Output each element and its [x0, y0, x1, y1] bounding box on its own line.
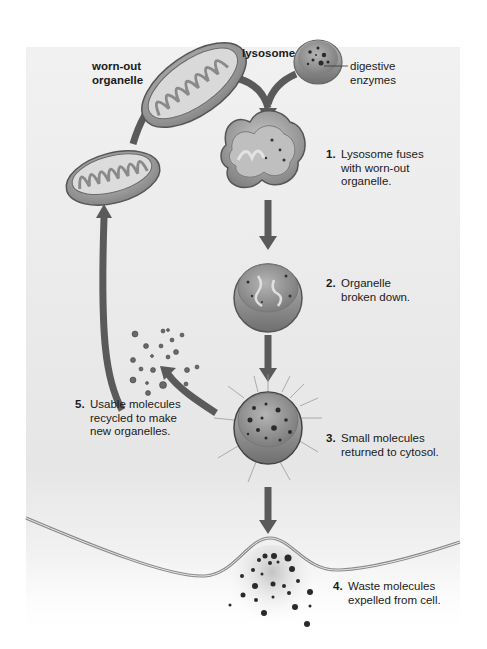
- step-4-number: 4.: [333, 580, 348, 607]
- waste-cloud: [230, 545, 314, 635]
- lysosome-label: lysosome: [242, 47, 295, 61]
- step-2-caption: 2. Organelle broken down.: [326, 277, 410, 304]
- step-4-caption: 4. Waste molecules expelled from cell.: [333, 580, 441, 607]
- arrow-organelle-to-fusion: [236, 78, 268, 108]
- step-5-caption: 5. Usable molecules recycled to make new…: [75, 398, 181, 439]
- new-organelle-illustration: [60, 141, 166, 214]
- step-1-number: 1.: [326, 148, 341, 189]
- arrow-recycle-to-new-organelle: [103, 218, 122, 410]
- releasing-lysosome-illustration: [214, 374, 322, 482]
- step-1-caption: 1. Lysosome fuses with worn-out organell…: [326, 148, 424, 189]
- step-3-text: Small molecules returned to cytosol.: [341, 432, 439, 459]
- step-2-text: Organelle broken down.: [341, 277, 410, 304]
- step-3-number: 3.: [326, 432, 341, 459]
- step-1-text: Lysosome fuses with worn-out organelle.: [341, 148, 424, 189]
- fused-organelle-illustration: [221, 111, 305, 188]
- step-5-number: 5.: [75, 398, 90, 439]
- lysosome-illustration: [294, 40, 348, 84]
- diagram-artwork: [0, 0, 487, 649]
- broken-down-organelle-illustration: [234, 264, 302, 332]
- worn-out-organelle-label: worn-out organelle: [92, 60, 143, 87]
- step-3-caption: 3. Small molecules returned to cytosol.: [326, 432, 439, 459]
- usable-molecules: [130, 329, 199, 396]
- digestive-enzymes-label: digestive enzymes: [350, 60, 396, 87]
- step-2-number: 2.: [326, 277, 341, 304]
- step-4-text: Waste molecules expelled from cell.: [348, 580, 441, 607]
- arrow-lysosome-to-fusion: [268, 74, 296, 104]
- step-5-text: Usable molecules recycled to make new or…: [90, 398, 181, 439]
